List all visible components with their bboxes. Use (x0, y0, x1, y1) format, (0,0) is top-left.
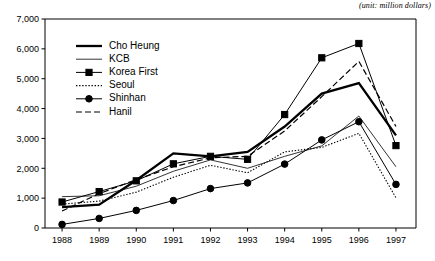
series-line (62, 133, 396, 204)
x-tick-label: 1991 (163, 235, 183, 245)
chart-legend: Cho HeungKCBKorea FirstSeoulShinhanHanil (76, 40, 160, 117)
legend-marker (86, 69, 92, 75)
y-axis-ticks: 01,0002,0003,0004,0005,0006,0007,000 (16, 14, 45, 233)
data-point-marker (96, 215, 103, 222)
x-tick-label: 1990 (126, 235, 146, 245)
legend-item-hanil[interactable]: Hanil (76, 106, 132, 117)
x-tick-label: 1993 (238, 235, 258, 245)
x-tick-label: 1988 (52, 235, 72, 245)
y-tick-label: 5,000 (16, 74, 39, 84)
x-tick-label: 1989 (89, 235, 109, 245)
y-tick-label: 3,000 (16, 134, 39, 144)
data-point-marker (393, 142, 399, 148)
legend-item-cho-heung[interactable]: Cho Heung (76, 40, 160, 51)
data-point-marker (244, 156, 250, 162)
legend-label: Hanil (109, 106, 132, 117)
x-tick-label: 1992 (200, 235, 220, 245)
data-point-marker (356, 40, 362, 46)
data-point-marker (59, 221, 66, 228)
legend-marker (86, 96, 93, 103)
x-tick-label: 1997 (386, 235, 406, 245)
data-point-marker (282, 111, 288, 117)
data-point-marker (319, 55, 325, 61)
y-tick-label: 0 (34, 223, 39, 233)
legend-item-shinhan[interactable]: Shinhan (76, 92, 146, 103)
legend-item-seoul[interactable]: Seoul (76, 79, 135, 90)
x-tick-label: 1995 (312, 235, 332, 245)
data-point-marker (244, 180, 251, 187)
series-shinhan (59, 118, 400, 227)
legend-label: Cho Heung (109, 40, 160, 51)
y-tick-label: 7,000 (16, 14, 39, 24)
data-point-marker (207, 185, 214, 192)
x-axis-ticks: 1988198919901991199219931994199519961997 (52, 228, 406, 245)
data-point-marker (170, 197, 177, 204)
legend-label: Shinhan (109, 92, 146, 103)
data-point-marker (281, 161, 288, 168)
series-seoul (62, 133, 396, 204)
data-point-marker (59, 199, 65, 205)
x-tick-label: 1994 (275, 235, 295, 245)
x-tick-label: 1996 (349, 235, 369, 245)
data-point-marker (356, 118, 363, 125)
legend-item-kcb[interactable]: KCB (76, 53, 130, 64)
legend-item-korea-first[interactable]: Korea First (76, 66, 158, 77)
chart-canvas: 01,0002,0003,0004,0005,0006,0007,000 198… (0, 0, 435, 261)
y-tick-label: 6,000 (16, 44, 39, 54)
legend-label: Korea First (109, 66, 158, 77)
legend-label: Seoul (109, 79, 135, 90)
y-tick-label: 1,000 (16, 193, 39, 203)
data-point-marker (133, 207, 140, 214)
data-point-marker (318, 137, 325, 144)
y-tick-label: 4,000 (16, 104, 39, 114)
y-tick-label: 2,000 (16, 164, 39, 174)
data-point-marker (393, 181, 400, 188)
line-chart: (unit: million dollars) 01,0002,0003,000… (0, 0, 435, 261)
series-line (62, 122, 396, 225)
legend-label: KCB (109, 53, 130, 64)
